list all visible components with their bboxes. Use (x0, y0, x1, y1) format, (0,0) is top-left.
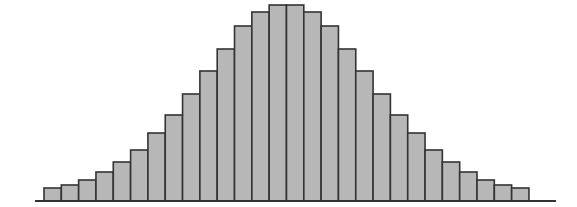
histogram-bar (286, 5, 303, 201)
histogram-bar (304, 12, 321, 201)
histogram-bar (61, 185, 78, 201)
histogram-bar (148, 133, 165, 201)
histogram-bars (44, 5, 529, 201)
histogram-bar (373, 94, 390, 201)
histogram-bar (79, 180, 96, 201)
histogram-bar (269, 5, 286, 201)
histogram-chart (0, 0, 577, 207)
histogram-bar (235, 26, 252, 201)
histogram-bar (44, 188, 61, 201)
histogram-bar (200, 71, 217, 201)
histogram-bar (252, 12, 269, 201)
histogram-bar (442, 162, 459, 201)
histogram-bar (425, 150, 442, 201)
histogram-bar (113, 162, 130, 201)
histogram-bar (356, 71, 373, 201)
histogram-bar (408, 133, 425, 201)
histogram-bar (338, 49, 355, 201)
histogram-bar (477, 180, 494, 201)
histogram-bar (96, 172, 113, 201)
histogram-bar (183, 94, 200, 201)
histogram-bar (321, 26, 338, 201)
histogram-bar (460, 172, 477, 201)
histogram-bar (165, 115, 182, 201)
histogram-bar (390, 115, 407, 201)
histogram-bar (512, 188, 529, 201)
histogram-bar (217, 49, 234, 201)
histogram-bar (131, 150, 148, 201)
histogram-bar (494, 185, 511, 201)
